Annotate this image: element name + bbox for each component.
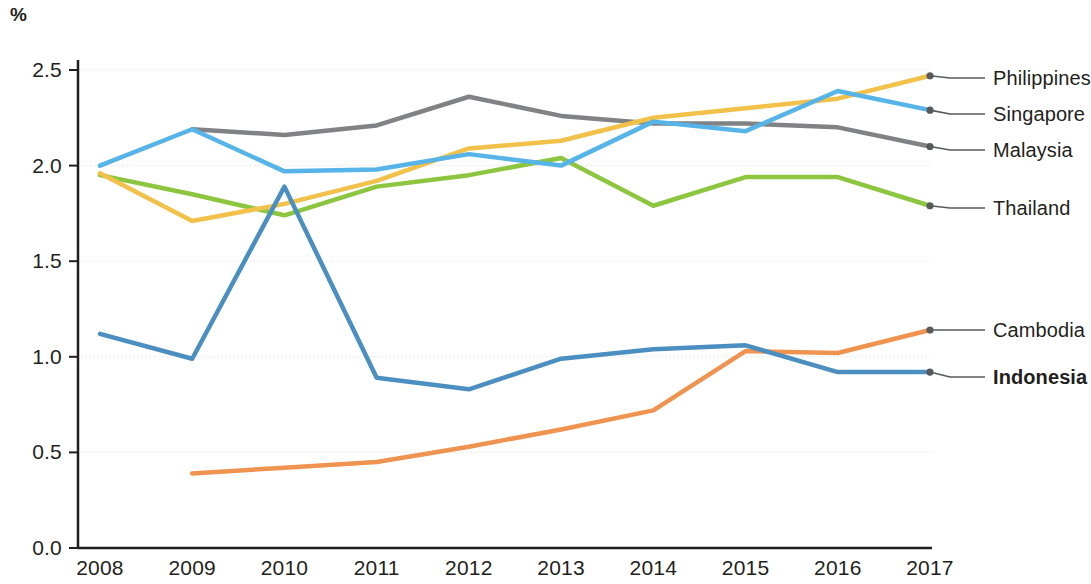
x-tick-2017: 2017 [890,556,970,580]
series-label-cambodia: Cambodia [993,319,1085,342]
series-label-singapore: Singapore [993,103,1085,126]
x-tick-2014: 2014 [613,556,693,580]
leader-line-singapore [930,110,985,114]
x-tick-2015: 2015 [706,556,786,580]
x-tick-2016: 2016 [798,556,878,580]
x-tick-2008: 2008 [60,556,140,580]
y-tick-2.0: 2.0 [6,154,62,178]
series-label-malaysia: Malaysia [993,139,1073,162]
x-tick-2009: 2009 [152,556,232,580]
y-tick-2.5: 2.5 [6,58,62,82]
series-label-indonesia: Indonesia [993,366,1087,389]
y-tick-0.5: 0.5 [6,440,62,464]
y-tick-1.0: 1.0 [6,345,62,369]
x-tick-2013: 2013 [521,556,601,580]
leader-line-philippines [930,76,985,78]
y-tick-0.0: 0.0 [6,536,62,560]
series-line-philippines [100,76,930,221]
leader-lines [926,72,985,377]
series-label-philippines: Philippines [993,67,1091,90]
leader-line-thailand [930,206,985,208]
series-lines [100,76,930,474]
series-line-thailand [100,158,930,215]
x-tick-2011: 2011 [337,556,417,580]
x-tick-2010: 2010 [244,556,324,580]
gridlines [69,70,932,548]
leader-line-malaysia [930,146,985,150]
y-tick-1.5: 1.5 [6,249,62,273]
series-label-thailand: Thailand [993,197,1071,220]
leader-line-indonesia [930,372,985,377]
x-tick-2012: 2012 [429,556,509,580]
